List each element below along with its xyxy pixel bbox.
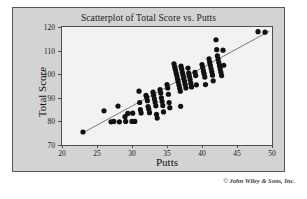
data-point	[130, 111, 135, 116]
data-point	[125, 111, 130, 116]
data-point	[161, 109, 166, 114]
data-point	[203, 82, 208, 87]
data-point	[115, 103, 120, 108]
chart-panel: Scatterplot of Total Score vs. Putts Tot…	[12, 7, 285, 172]
data-point	[137, 100, 142, 105]
data-point	[147, 110, 152, 115]
x-tick-label: 50	[268, 149, 276, 158]
data-point	[219, 73, 224, 78]
data-point	[193, 73, 198, 78]
y-tick-label: 90	[29, 93, 55, 102]
data-point	[153, 103, 158, 108]
data-point	[167, 100, 172, 105]
x-tick-label: 25	[93, 149, 101, 158]
y-tick-label: 70	[29, 141, 55, 150]
data-point	[189, 84, 194, 89]
scatter-plot-svg	[62, 27, 272, 145]
x-tick-label: 35	[163, 149, 171, 158]
x-tick-label: 45	[233, 149, 241, 158]
data-point	[123, 119, 128, 124]
y-tick-label: 100	[29, 70, 55, 79]
data-point	[117, 119, 122, 124]
data-point	[202, 74, 207, 79]
data-point	[167, 105, 172, 110]
data-point	[101, 108, 106, 113]
data-point	[136, 89, 141, 94]
data-point	[262, 30, 267, 35]
data-point	[158, 90, 163, 95]
data-point	[221, 63, 226, 68]
data-point	[160, 103, 165, 108]
data-point	[194, 82, 199, 87]
data-point	[211, 78, 216, 83]
data-point	[178, 104, 183, 109]
data-point	[210, 73, 215, 78]
data-point	[214, 47, 219, 52]
data-point	[255, 29, 260, 34]
y-tick-label: 80	[29, 117, 55, 126]
copyright-notice: © John Wiley & Sons, Inc.	[223, 177, 295, 184]
figure-root: Scatterplot of Total Score vs. Putts Tot…	[0, 0, 307, 199]
plot-area	[61, 26, 273, 146]
data-point	[132, 119, 137, 124]
x-tick-label: 20	[58, 149, 66, 158]
y-tick-label: 110	[29, 46, 55, 55]
data-point	[111, 119, 116, 124]
data-point	[213, 37, 218, 42]
x-tick-label: 40	[198, 149, 206, 158]
data-point	[80, 129, 85, 134]
data-point	[155, 116, 160, 121]
data-point	[165, 85, 170, 90]
x-tick-label: 30	[128, 149, 136, 158]
y-tick-label: 120	[29, 23, 55, 32]
data-point	[139, 110, 144, 115]
data-point	[145, 98, 150, 103]
chart-title: Scatterplot of Total Score vs. Putts	[13, 13, 284, 23]
data-point	[185, 65, 190, 70]
data-point	[178, 89, 183, 94]
data-point	[166, 92, 171, 97]
data-point	[220, 48, 225, 53]
data-point	[183, 85, 188, 90]
